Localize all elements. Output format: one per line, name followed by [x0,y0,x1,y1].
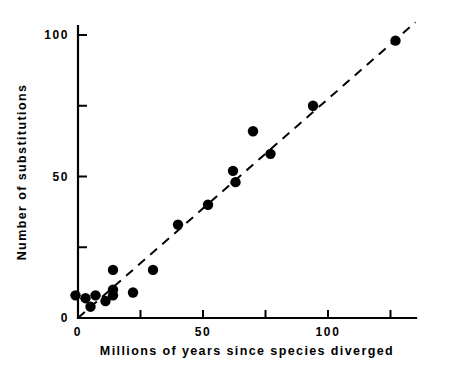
y-tick-label: 50 [52,170,69,184]
trend-line [78,22,416,318]
scatter-plot-figure: 050100 050100 Millions of years since sp… [0,0,450,370]
y-axis-tick-labels: 050100 [44,28,69,325]
data-point [230,177,240,187]
data-point [85,301,95,311]
data-point [173,219,183,229]
data-point [148,265,158,275]
y-tick-label: 100 [44,28,69,42]
data-point [90,290,100,300]
data-point [108,285,118,295]
data-point [308,101,318,111]
x-axis-ticks [78,310,391,318]
y-axis-title: Number of substitutions [15,84,29,261]
plot-canvas: 050100 050100 Millions of years since sp… [0,0,450,370]
data-point [128,287,138,297]
data-point [70,290,80,300]
data-point [265,149,275,159]
data-point [108,265,118,275]
x-axis-tick-labels: 050100 [74,325,341,339]
x-tick-label: 100 [316,325,341,339]
data-points-group [70,35,400,311]
data-point [203,200,213,210]
x-tick-label: 50 [195,325,212,339]
y-axis-ticks [78,35,87,318]
y-tick-label: 0 [61,311,69,325]
data-point [228,166,238,176]
x-tick-label: 0 [74,325,82,339]
x-axis-title: Millions of years since species diverged [100,344,394,358]
data-point [248,126,258,136]
data-point [390,35,400,45]
